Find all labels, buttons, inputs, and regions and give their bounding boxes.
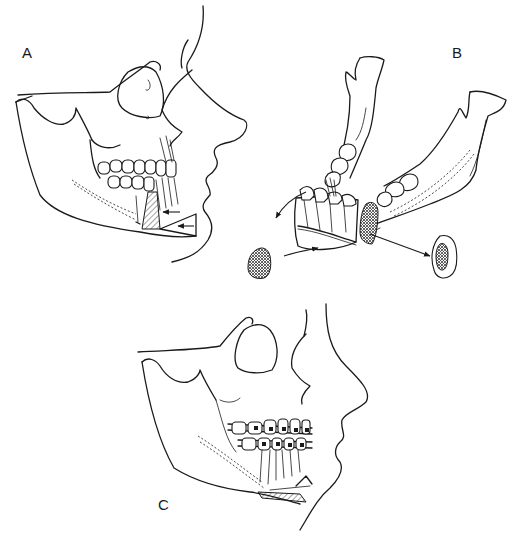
- panel-a-drawing: [16, 6, 247, 262]
- panel-c-drawing: [138, 304, 368, 530]
- panel-b-drawing: [248, 57, 506, 279]
- figure-canvas: A B C: [0, 0, 518, 540]
- illustration-svg: [0, 0, 518, 540]
